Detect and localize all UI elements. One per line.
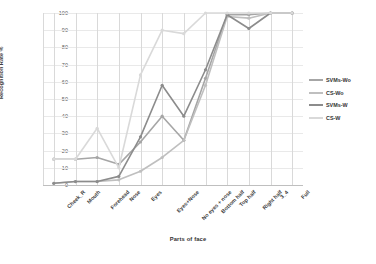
- x-tick-label: Eyes+Nose: [176, 189, 201, 214]
- legend-item-cs-wo[interactable]: CS-Wo: [309, 87, 371, 100]
- grid-line: [43, 168, 303, 169]
- grid-line: [43, 82, 303, 83]
- legend-item-svms-wo[interactable]: SVMs-Wo: [309, 74, 371, 87]
- grid-line-vertical: [249, 13, 250, 185]
- y-axis-line: [43, 13, 44, 185]
- grid-line-vertical: [206, 13, 207, 185]
- x-axis-title: Parts of face: [0, 236, 376, 242]
- x-tick-label: Eyes: [149, 189, 162, 202]
- grid-line-vertical: [119, 13, 120, 185]
- grid-line: [43, 99, 303, 100]
- grid-line-vertical: [141, 13, 142, 185]
- legend-swatch-icon: [309, 117, 323, 119]
- plot-area: [43, 13, 303, 185]
- y-axis-title: Recognition Rate %: [0, 46, 4, 99]
- legend-label: SVMs-Wo: [326, 77, 351, 83]
- grid-line-vertical: [97, 13, 98, 185]
- legend-label: CS-Wo: [326, 90, 344, 96]
- grid-line: [43, 133, 303, 134]
- grid-line-vertical: [184, 13, 185, 185]
- grid-line-vertical: [162, 13, 163, 185]
- grid-line: [43, 65, 303, 66]
- legend-swatch-icon: [309, 104, 323, 106]
- x-tick-label: Mouth: [85, 189, 101, 205]
- legend-item-svms-w[interactable]: SVMs-W: [309, 99, 371, 112]
- x-axis-line: [43, 185, 303, 186]
- grid-line-vertical: [271, 13, 272, 185]
- grid-line: [43, 116, 303, 117]
- grid-line: [43, 47, 303, 48]
- grid-line: [43, 13, 303, 14]
- grid-line: [43, 30, 303, 31]
- x-tick-label: Cheek_R: [66, 189, 87, 210]
- x-tick-label: Nose: [128, 189, 142, 203]
- x-tick-label: Full: [300, 189, 311, 200]
- legend-item-cs-w[interactable]: CS-W: [309, 112, 371, 125]
- legend-swatch-icon: [309, 92, 323, 94]
- legend-label: CS-W: [326, 115, 340, 121]
- grid-line: [43, 151, 303, 152]
- line-chart: Recognition Rate % 010203040506070809010…: [0, 0, 376, 264]
- grid-line-vertical: [54, 13, 55, 185]
- chart-legend: SVMs-WoCS-WoSVMs-WCS-W: [309, 74, 371, 124]
- legend-label: SVMs-W: [326, 102, 348, 108]
- grid-line-vertical: [76, 13, 77, 185]
- x-tick-label: Forehead: [109, 189, 130, 210]
- legend-swatch-icon: [309, 79, 323, 81]
- grid-line-vertical: [227, 13, 228, 185]
- grid-line-vertical: [292, 13, 293, 185]
- x-tick-label: Right half: [261, 189, 283, 211]
